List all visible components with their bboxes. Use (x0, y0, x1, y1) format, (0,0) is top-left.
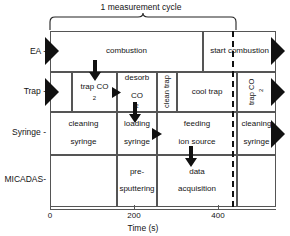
down-arrow-feeding-to-acquisition (184, 146, 198, 168)
flow-arrow-ea-right (270, 36, 286, 66)
step-arrow-trap-to-desorb (111, 86, 122, 99)
block-ea-combustion-label: combustion (106, 47, 147, 56)
measurement-cycle-brace (48, 13, 238, 31)
block-trap-trap-co2-1-label: trap CO2 (80, 83, 108, 101)
x-axis-tick-200 (134, 205, 135, 210)
block-trap-clean-trap-label: clean trap (163, 76, 171, 109)
block-syringe-feeding-ion-source-label: feedingion source (179, 120, 216, 147)
block-ea-start-combustion-label: start combustion (210, 47, 269, 56)
flow-arrow-trap-left (44, 77, 60, 107)
block-syringe-cleaning-2-label: cleaningsyringe (242, 120, 272, 147)
down-arrow-ea-to-trap (88, 60, 102, 82)
row-label-ea: EA - (0, 46, 46, 56)
row-label-trap: Trap - (0, 86, 46, 96)
flow-arrow-ea-left (44, 36, 60, 66)
block-trap-cool-trap: cool trap (177, 72, 237, 112)
block-trap-cool-trap-label: cool trap (192, 88, 223, 97)
block-trap-clean-trap: clean trap (157, 72, 177, 112)
block-ea-start-combustion: start combustion (203, 31, 276, 72)
block-micadas-pre-sputtering-label: pre-sputtering (119, 168, 154, 195)
block-syringe-cleaning-1: cleaningsyringe (50, 112, 117, 155)
row-label-micadas: MICADAS- (0, 174, 46, 184)
x-axis-tick-label-200: 200 (122, 211, 146, 220)
x-axis-tick-0 (50, 205, 51, 210)
block-micadas-idle-2 (237, 155, 276, 207)
block-micadas-idle (50, 155, 117, 207)
block-syringe-cleaning-1-label: cleaningsyringe (69, 120, 99, 147)
x-axis-tick-400 (218, 205, 219, 210)
x-axis-title: Time (s) (98, 223, 188, 233)
flow-arrow-trap-right (270, 77, 286, 107)
block-micadas-data-acquisition-label: dataacquisition (178, 168, 216, 195)
block-ea-combustion: combustion (50, 31, 203, 72)
cycle-end-dashed-line (232, 31, 234, 207)
row-label-syringe: Syringe - (0, 127, 46, 137)
cycle-label: 1 measurement cycle (66, 2, 216, 12)
x-axis-tick-label-400: 400 (206, 211, 230, 220)
step-arrow-syringe-to-feeding (151, 127, 163, 141)
block-trap-trap-co2-2-label: trap CO2 (248, 79, 265, 105)
down-arrow-desorb-to-loading (128, 102, 142, 124)
process-timeline-diagram: 1 measurement cycle EA - Trap - Syringe … (0, 0, 290, 236)
x-axis-line (50, 209, 276, 210)
block-syringe-loading-label: loadingsyringe (124, 120, 150, 147)
block-micadas-pre-sputtering: pre-sputtering (117, 155, 157, 207)
x-axis-tick-label-0: 0 (40, 211, 60, 220)
flow-arrow-syringe-right (270, 119, 286, 149)
